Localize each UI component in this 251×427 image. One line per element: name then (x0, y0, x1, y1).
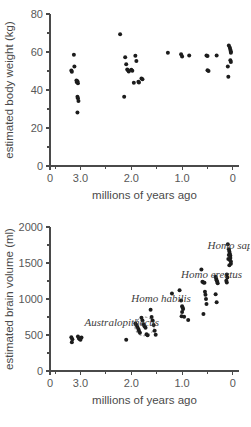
y-tick-label: 0 (37, 365, 43, 377)
data-point (182, 315, 186, 319)
data-point-group (69, 32, 233, 114)
y-tick-label: 500 (25, 329, 43, 341)
data-point (70, 70, 74, 74)
data-point (118, 32, 122, 36)
x-tick-label: 1.0 (174, 172, 189, 184)
y-tick-label: 60 (31, 46, 43, 58)
data-point (201, 312, 205, 316)
x-tick-label: 3.0 (73, 172, 88, 184)
data-point (132, 81, 136, 85)
y-axis-title: estimated brain volume (ml) (3, 228, 15, 370)
data-point (137, 81, 141, 85)
data-point (75, 110, 79, 114)
species-label: Homo sapiens (207, 239, 251, 251)
data-point (180, 55, 184, 59)
data-point (72, 53, 76, 57)
y-axis-title: estimated body weight (kg) (3, 21, 15, 159)
data-point (206, 54, 210, 58)
data-point (226, 257, 230, 261)
x-tick-label: 0 (230, 172, 236, 184)
y-tick-label: 1000 (19, 293, 43, 305)
data-point (186, 318, 190, 322)
data-point (133, 54, 137, 58)
body-weight-scatter-plot: 02040608003.02.01.00millions of years ag… (0, 0, 250, 215)
chart-body-weight: 02040608003.02.01.00millions of years ag… (0, 0, 250, 215)
y-tick-label: 1500 (19, 257, 43, 269)
data-point (124, 62, 128, 66)
x-tick-label: 2.0 (124, 377, 139, 389)
data-point (226, 75, 230, 79)
data-point (72, 64, 76, 68)
data-point (122, 95, 126, 99)
species-label: Homo erectus (180, 268, 242, 280)
data-point (146, 333, 150, 337)
y-tick-label: 0 (37, 160, 43, 172)
data-point (214, 292, 218, 296)
data-point (140, 77, 144, 81)
species-label: Australopithecus (84, 316, 160, 328)
x-tick-label: 0 (230, 377, 236, 389)
data-point (166, 51, 170, 55)
x-tick-label: 0 (47, 377, 53, 389)
data-point (187, 53, 191, 57)
data-point (229, 60, 233, 64)
brain-volume-scatter-plot: 050010001500200003.02.01.00millions of y… (0, 213, 250, 427)
y-tick-label: 40 (31, 84, 43, 96)
data-point (204, 297, 208, 301)
data-point (124, 338, 128, 342)
data-point (180, 310, 184, 314)
data-point (227, 253, 231, 257)
data-point (203, 293, 207, 297)
data-point (226, 64, 230, 68)
x-tick-label: 2.0 (124, 172, 139, 184)
x-tick-label: 3.0 (73, 377, 88, 389)
data-point (227, 263, 231, 267)
data-point (134, 59, 138, 63)
chart-brain-volume: 050010001500200003.02.01.00millions of y… (0, 213, 250, 427)
data-point (215, 300, 219, 304)
data-point (225, 280, 229, 284)
data-point (149, 308, 153, 312)
data-point (215, 53, 219, 57)
y-tick-label: 80 (31, 8, 43, 20)
x-axis-title: millions of years ago (92, 394, 197, 406)
data-point (78, 338, 82, 342)
data-point (204, 302, 208, 306)
data-point (76, 99, 80, 103)
figure-container: 02040608003.02.01.00millions of years ag… (0, 0, 250, 427)
y-tick-label: 20 (31, 122, 43, 134)
species-label: Homo habilis (130, 292, 191, 304)
data-point (138, 331, 142, 335)
data-point (153, 329, 157, 333)
data-point (123, 55, 127, 59)
data-point (202, 281, 206, 285)
data-point (154, 333, 158, 337)
data-point (229, 51, 233, 55)
data-point (76, 81, 80, 85)
x-tick-label: 1.0 (174, 377, 189, 389)
data-point (216, 281, 220, 285)
data-point (130, 69, 134, 73)
data-point (207, 69, 211, 73)
y-tick-label: 2000 (19, 221, 43, 233)
data-point (70, 340, 74, 344)
x-axis-title: millions of years ago (92, 189, 197, 201)
x-tick-label: 0 (47, 172, 53, 184)
